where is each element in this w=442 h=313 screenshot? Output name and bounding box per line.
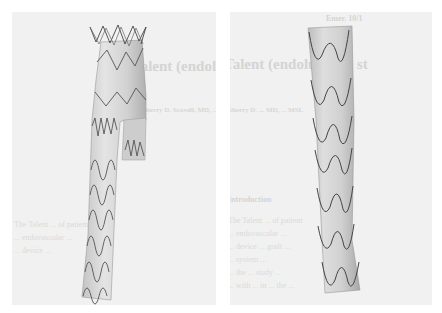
bifurcated-stent-graft-illustration bbox=[12, 12, 216, 305]
tubular-stent-graft-illustration bbox=[230, 12, 432, 305]
photo-panel-bifurcated-graft: Talent (endoluminal st Sherry D. Scovell… bbox=[12, 12, 216, 305]
photo-panel-tubular-graft: Emer. 10/1 Talent (endoluminal st Sherry… bbox=[230, 12, 432, 305]
